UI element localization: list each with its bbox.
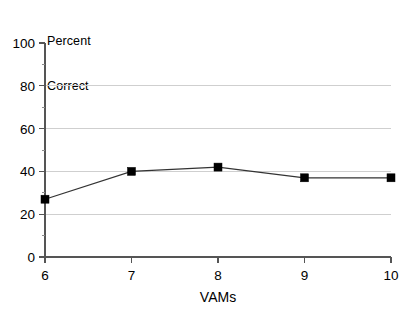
x-axis-title: VAMs: [200, 289, 236, 305]
y-tick-label-100: 100: [12, 36, 35, 51]
data-point-marker-9: [301, 174, 309, 182]
y-tick-label-20: 20: [20, 207, 35, 222]
series-line-path: [45, 167, 391, 199]
data-point-marker-6: [41, 195, 49, 203]
x-axis-major-ticks: [45, 257, 391, 263]
data-series-percent-correct: [41, 163, 395, 203]
chart-figure: Percent Correct: [0, 0, 407, 315]
data-point-marker-7: [128, 167, 136, 175]
x-tick-label-7: 7: [128, 268, 136, 283]
x-axis-tick-labels: 6 7 8 9 10: [41, 268, 398, 283]
y-axis-tick-labels: 100 80 60 40 20 0: [12, 36, 35, 265]
data-point-marker-10: [387, 174, 395, 182]
x-tick-label-6: 6: [41, 268, 49, 283]
y-tick-label-80: 80: [20, 79, 35, 94]
data-point-marker-8: [214, 163, 222, 171]
plot-area: 100 80 60 40 20 0 6 7 8 9 10 VAMs: [0, 0, 407, 315]
y-tick-label-60: 60: [20, 122, 35, 137]
gridlines: [45, 86, 391, 257]
x-tick-label-9: 9: [301, 268, 309, 283]
y-tick-label-0: 0: [27, 250, 35, 265]
y-tick-label-40: 40: [20, 164, 35, 179]
x-tick-label-10: 10: [383, 268, 398, 283]
x-tick-label-8: 8: [214, 268, 222, 283]
